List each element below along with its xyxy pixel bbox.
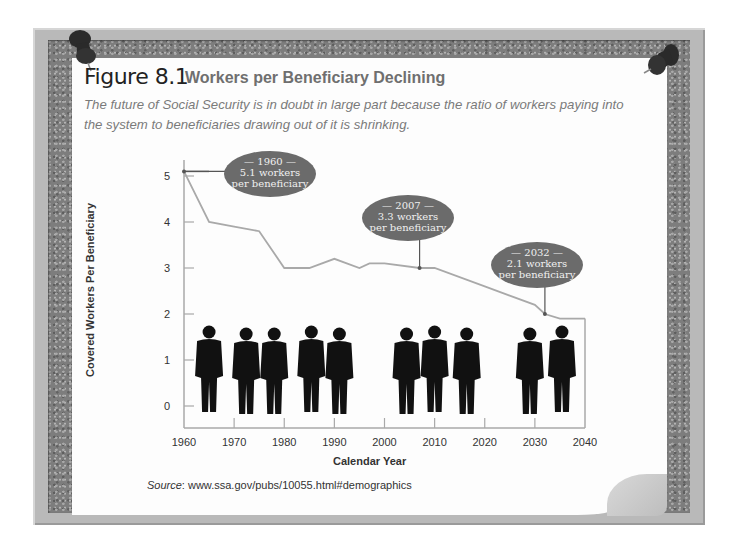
svg-text:3.3 workers: 3.3 workers — [378, 211, 438, 222]
person-silhouette-icon — [393, 328, 421, 415]
person-silhouette-icon — [421, 326, 449, 413]
y-tick-label: 5 — [164, 170, 170, 182]
person-silhouette-icon — [548, 326, 576, 413]
figure-label: Figure 8.1 — [84, 64, 188, 89]
person-silhouette-icon — [325, 328, 353, 415]
source-label: Source — [147, 479, 182, 491]
y-tick-label: 4 — [164, 216, 170, 228]
x-tick-label: 1980 — [272, 436, 296, 448]
x-tick-label: 2030 — [523, 436, 547, 448]
callout-bubble: — 1960 —5.1 workersper beneficiary — [182, 151, 316, 197]
callout-bubble: — 2007 —3.3 workersper beneficiary — [362, 195, 454, 270]
x-tick-label: 1960 — [172, 436, 196, 448]
svg-text:— 2007 —: — 2007 — — [382, 200, 434, 211]
svg-text:per beneficiary: per beneficiary — [499, 269, 576, 280]
x-tick-label: 1970 — [222, 436, 246, 448]
figure-title: Workers per Beneficiary Declining — [185, 69, 445, 87]
figure-caption: The future of Social Security is in doub… — [84, 95, 644, 135]
person-silhouette-icon — [232, 328, 260, 415]
person-silhouette-icon — [297, 326, 325, 413]
y-tick-label: 3 — [164, 262, 170, 274]
x-tick-label: 2040 — [573, 436, 597, 448]
svg-text:per beneficiary: per beneficiary — [370, 222, 447, 233]
person-silhouette-icon — [195, 326, 223, 413]
person-silhouette-icon — [516, 328, 544, 415]
x-axis-title: Calendar Year — [333, 455, 406, 467]
source-note: Source: www.ssa.gov/pubs/10055.html#demo… — [147, 479, 412, 491]
y-tick-label: 2 — [164, 308, 170, 320]
y-axis-title: Covered Workers Per Beneficiary — [84, 203, 96, 377]
x-tick-label: 2000 — [372, 436, 396, 448]
x-tick-label: 2020 — [473, 436, 497, 448]
source-url: : www.ssa.gov/pubs/10055.html#demographi… — [182, 479, 412, 491]
y-tick-label: 1 — [164, 354, 170, 366]
svg-text:— 2032 —: — 2032 — — [511, 247, 563, 258]
x-tick-label: 1990 — [322, 436, 346, 448]
svg-text:5.1 workers: 5.1 workers — [240, 167, 300, 178]
svg-text:per beneficiary: per beneficiary — [232, 178, 309, 189]
person-silhouette-icon — [453, 328, 481, 415]
person-silhouette-icon — [260, 328, 288, 415]
pushpin-icon — [643, 43, 681, 79]
x-tick-label: 2010 — [422, 436, 446, 448]
callout-bubble: — 2032 —2.1 workersper beneficiary — [491, 242, 583, 316]
svg-text:2.1 workers: 2.1 workers — [507, 258, 567, 269]
svg-text:— 1960 —: — 1960 — — [244, 156, 296, 167]
y-tick-label: 0 — [164, 400, 170, 412]
line-chart: 0123451960197019801990200020102020203020… — [140, 148, 600, 448]
